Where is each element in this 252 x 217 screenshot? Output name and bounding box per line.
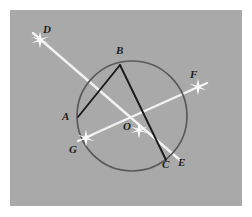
point-label-C: C: [162, 159, 169, 170]
point-label-B: B: [116, 45, 123, 56]
point-label-G: G: [69, 144, 77, 155]
point-label-E: E: [178, 157, 185, 168]
diagram-root: D B F A O G C E: [0, 0, 252, 217]
geometry-figure: [0, 0, 252, 217]
point-label-A: A: [62, 111, 69, 122]
star-marker-F: [190, 79, 207, 96]
point-label-F: F: [190, 69, 197, 80]
ray-D-E: [33, 33, 181, 161]
segment-B-C: [120, 65, 166, 160]
point-label-D: D: [43, 24, 51, 35]
point-label-O: O: [123, 121, 131, 132]
